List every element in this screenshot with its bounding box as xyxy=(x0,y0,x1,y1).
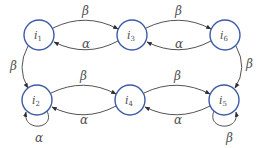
label-i6-i3: α xyxy=(175,37,183,51)
node-i6: i6 xyxy=(210,20,240,50)
label-i3-i1: α xyxy=(82,37,90,51)
label-i2-self: α xyxy=(35,131,43,145)
label-i1-i2: β xyxy=(9,59,17,73)
edge-i1-i3 xyxy=(53,20,118,29)
node-i3: i3 xyxy=(117,20,147,50)
node-i1: i1 xyxy=(24,20,54,50)
label-i5-self: β xyxy=(225,131,233,145)
label-i1-i3: β xyxy=(81,4,89,18)
node-i4: i4 xyxy=(115,85,145,115)
label-i5-i4: α xyxy=(174,113,182,127)
label-i3-i6: β xyxy=(174,4,182,18)
edge-i1-i2 xyxy=(22,46,28,88)
edge-i3-i6 xyxy=(146,20,211,29)
node-i5: i5 xyxy=(209,85,239,115)
edge-i2-i4 xyxy=(51,85,116,94)
edge-i6-i5 xyxy=(235,46,242,88)
label-i4-i2: α xyxy=(80,113,88,127)
state-diagram: β α β α β β β α β α α β i1 i3 i6 i2 i4 i… xyxy=(0,0,263,148)
label-i2-i4: β xyxy=(79,69,87,83)
edge-i4-i5 xyxy=(144,85,210,94)
label-i4-i5: β xyxy=(173,69,181,83)
label-i6-i5: β xyxy=(245,57,253,71)
node-i2: i2 xyxy=(22,85,52,115)
